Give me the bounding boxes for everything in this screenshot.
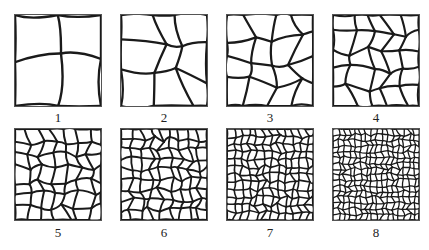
- panel-label-3: 3: [226, 110, 314, 126]
- grain-panel-4: [332, 14, 420, 107]
- panel-label-2: 2: [120, 110, 208, 126]
- grain-panel-7: [226, 128, 314, 221]
- panel-label-4: 4: [332, 110, 420, 126]
- grain-panel-6: [120, 128, 208, 221]
- panel-label-7: 7: [226, 225, 314, 241]
- panel-label-6: 6: [120, 225, 208, 241]
- grain-panel-5: [14, 128, 102, 221]
- grain-panel-1: [14, 14, 102, 107]
- panel-label-8: 8: [332, 225, 420, 241]
- grain-panel-3: [226, 14, 314, 107]
- grain-panel-2: [120, 14, 208, 107]
- panel-label-1: 1: [14, 110, 102, 126]
- panel-label-5: 5: [14, 225, 102, 241]
- grain-panel-8: [332, 128, 420, 221]
